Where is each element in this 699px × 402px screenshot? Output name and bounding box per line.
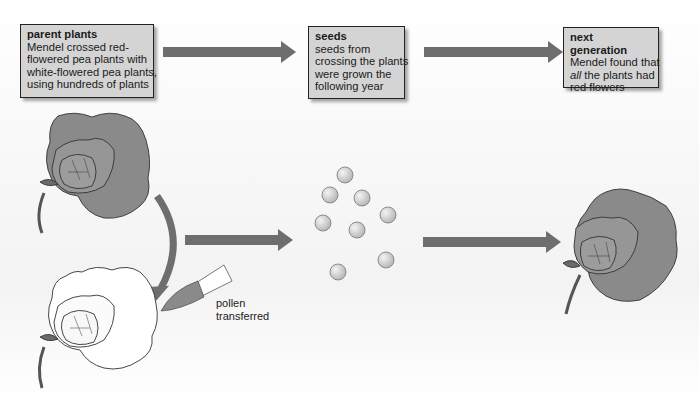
- arrow-parents-to-seeds: [163, 41, 296, 63]
- parent-plants-line: using hundreds of plants: [27, 78, 147, 91]
- seeds-line: seeds from: [315, 43, 398, 56]
- white-flower-parent: [39, 267, 157, 388]
- seeds-box: seeds seeds from crossing the plants wer…: [308, 26, 405, 99]
- curved-arrow-pollination: [148, 196, 174, 301]
- next-generation-line: Mendel found that: [570, 56, 652, 69]
- arrow-seeds-to-offspring: [423, 231, 561, 253]
- next-generation-text: the plants had: [581, 69, 654, 81]
- red-flower-parent: [39, 113, 150, 233]
- emphasis-all: all: [570, 69, 581, 81]
- seed: [378, 252, 394, 268]
- seed: [315, 215, 331, 231]
- parent-plants-title: parent plants: [27, 28, 147, 41]
- seeds-line: crossing the plants: [315, 55, 398, 68]
- seeds-title: seeds: [315, 30, 398, 43]
- seed: [354, 190, 370, 206]
- pollen-label-line: pollen: [216, 297, 269, 310]
- seeds-line: following year: [315, 80, 398, 93]
- red-flower-offspring: [563, 189, 677, 314]
- parent-plants-line: Mendel crossed red-: [27, 41, 147, 54]
- seed: [380, 207, 396, 223]
- next-generation-title: next generation: [570, 31, 652, 56]
- seeds-cluster: [315, 167, 396, 280]
- arrow-seeds-to-next-generation: [424, 41, 563, 63]
- parent-plants-line: white-flowered pea plants,: [27, 66, 147, 79]
- seed: [349, 222, 365, 238]
- seed: [322, 187, 338, 203]
- seed: [337, 167, 353, 183]
- next-generation-box: next generation Mendel found that all th…: [563, 27, 659, 88]
- parent-plants-box: parent plants Mendel crossed red- flower…: [20, 24, 154, 98]
- arrow-cross-to-seeds: [185, 229, 293, 251]
- seeds-line: were grown the: [315, 68, 398, 81]
- next-generation-line: red flowers: [570, 81, 652, 94]
- pollen-transferred-label: pollen transferred: [216, 297, 269, 322]
- parent-plants-line: flowered pea plants with: [27, 53, 147, 66]
- next-generation-line: all the plants had: [570, 69, 652, 82]
- pollen-label-line: transferred: [216, 310, 269, 323]
- seed: [330, 264, 346, 280]
